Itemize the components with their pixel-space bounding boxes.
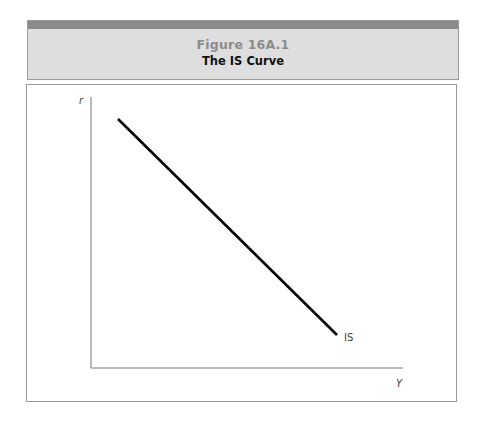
is-curve-chart: r Y IS (0, 0, 481, 425)
x-axis-label: Y (396, 378, 403, 389)
y-axis-label: r (79, 95, 84, 106)
curve-label: IS (344, 332, 353, 343)
is-curve-line (118, 119, 337, 335)
